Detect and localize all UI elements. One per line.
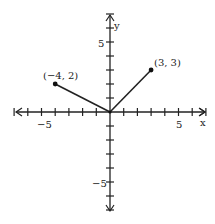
labels: y x −5 5 5 −5 (−4, 2) (3, 3) <box>37 20 206 189</box>
y-tick-label-5: 5 <box>98 38 104 49</box>
point-label-left: (−4, 2) <box>43 70 78 81</box>
segment-right <box>110 70 151 112</box>
x-tick-label-5: 5 <box>176 119 182 130</box>
point-label-right: (3, 3) <box>154 57 181 68</box>
coordinate-plane: y x −5 5 5 −5 (−4, 2) (3, 3) <box>0 0 215 224</box>
origin-point <box>108 110 111 113</box>
segment-left <box>55 84 110 112</box>
point-right <box>149 68 154 73</box>
point-left <box>53 82 58 87</box>
x-axis-label: x <box>200 117 206 128</box>
y-tick-label-neg5: −5 <box>92 178 107 189</box>
x-tick-label-neg5: −5 <box>37 119 52 130</box>
y-axis-label: y <box>113 20 120 31</box>
